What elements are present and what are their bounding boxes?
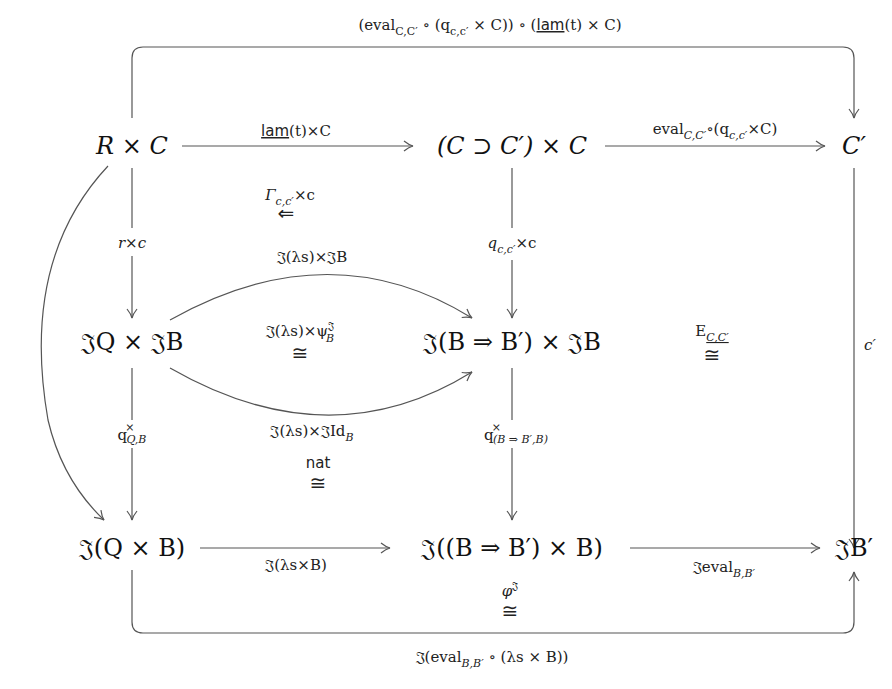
two-cell-phi: φ𝔍 xyxy=(502,580,519,600)
label-j-lambda-times-jb: 𝔍(λs)×𝔍B xyxy=(276,248,348,266)
object-j-exp-times-b: 𝔍((B ⇒ B′) × B) xyxy=(420,534,603,562)
object-r-times-c: R × C xyxy=(95,132,168,160)
object-implication-times-c: (C ⊃ C′) × C xyxy=(437,132,587,160)
iso-nat-icon: ≅ xyxy=(310,471,327,495)
two-cell-e: EC,C′ xyxy=(695,322,729,344)
label-j-lambda-times-b: 𝔍(λs×B) xyxy=(264,556,327,574)
bottom-loop-label: 𝔍(evalB,B′ ∘ (λs × B)) xyxy=(415,648,569,670)
object-j-q-times-b: 𝔍(Q × B) xyxy=(78,534,185,562)
arrow-j-lambda-times-jid xyxy=(170,368,472,415)
iso-phi-icon: ≅ xyxy=(502,599,519,623)
arrow-j-lambda-times-jb xyxy=(170,274,472,320)
commutative-diagram: (evalC,C′ ∘ (qc,c′ × C)) ∘ (lam(t) × C) … xyxy=(0,0,892,689)
object-jq-times-jb: 𝔍Q × 𝔍B xyxy=(80,328,184,356)
label-q-times-c: qc,c′×c xyxy=(488,234,537,256)
object-j-exp-times-jb: 𝔍(B ⇒ B′) × 𝔍B xyxy=(422,328,601,356)
label-q-cross-exp: q×(B ⇒ B′,B) xyxy=(484,421,548,446)
iso-e-icon: ≅ xyxy=(704,343,721,367)
label-j-lambda-times-jid: 𝔍(λs)×𝔍IdB xyxy=(269,422,353,444)
double-arrow-left-icon: ⇐ xyxy=(278,201,295,225)
object-c-prime: C′ xyxy=(842,132,866,160)
iso-psi-icon: ≅ xyxy=(292,341,309,365)
label-r-times-c: r×c xyxy=(118,234,147,252)
label-c-prime: c′ xyxy=(864,336,876,354)
label-j-eval: 𝔍evalB,B′ xyxy=(692,558,756,580)
top-loop-arrow xyxy=(132,47,854,118)
label-eval-composite: evalC,C′∘(qc,c′×C) xyxy=(653,120,778,142)
label-q-cross-qb: q×Q,B xyxy=(118,421,147,446)
two-cell-nat: nat xyxy=(306,454,331,472)
label-lam-t-times-c: lam(t)×C xyxy=(261,122,331,140)
top-loop-label: (evalC,C′ ∘ (qc,c′ × C)) ∘ (lam(t) × C) xyxy=(358,16,621,38)
object-j-b-prime: 𝔍B′ xyxy=(834,534,873,562)
